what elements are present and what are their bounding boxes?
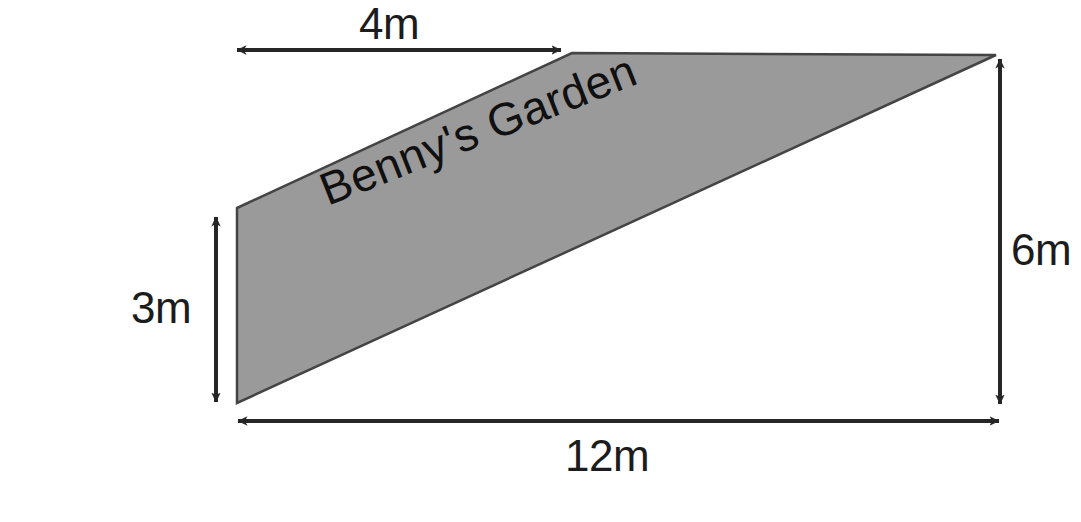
dimension-label-right: 6m — [1011, 228, 1071, 272]
dimension-label-bottom: 12m — [565, 434, 649, 478]
dimension-label-top: 4m — [359, 2, 419, 46]
dimension-label-left: 3m — [131, 286, 191, 330]
diagram-canvas: 4m 3m 6m 12m Benny's Garden — [0, 0, 1081, 522]
garden-shape — [237, 53, 996, 403]
